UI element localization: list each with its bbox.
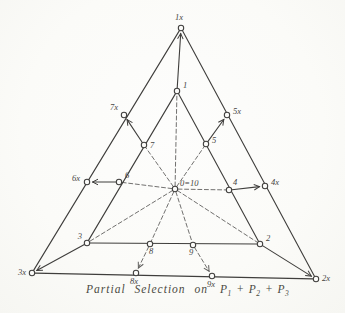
scanned-figure-page: 0=101234567891x2x3x4x5x6x7x8x9x Partial …	[0, 0, 345, 313]
label-4x: 4x	[271, 177, 279, 187]
point-7	[141, 142, 146, 147]
label-5x: 5x	[233, 106, 241, 116]
edge-0-9	[176, 192, 192, 242]
point-3	[84, 240, 89, 245]
edge-9-9x	[195, 248, 210, 272]
label-7x: 7x	[110, 102, 118, 112]
point-4x	[262, 183, 267, 188]
diagram-labels: 0=101234567891x2x3x4x5x6x7x8x9x	[17, 12, 330, 289]
triangle-selection-diagram: 0=101234567891x2x3x4x5x6x7x8x9x	[0, 0, 345, 313]
edge-7-7x	[127, 120, 142, 143]
formula-term-subscript: 2	[256, 289, 260, 298]
edge-1-1x	[177, 34, 181, 89]
edge-2-1	[178, 94, 258, 242]
label-1x: 1x	[175, 12, 183, 22]
point-4	[226, 187, 231, 192]
label-2x: 2x	[322, 273, 330, 283]
point-1x	[178, 25, 183, 30]
point-0	[172, 186, 177, 191]
point-2	[257, 241, 262, 246]
formula-term-base: P	[220, 283, 228, 295]
edge-0-8	[151, 192, 174, 242]
label-2: 2	[266, 233, 271, 243]
label-5: 5	[212, 135, 216, 145]
edge-0-7	[146, 148, 174, 187]
diagram-edges	[34, 31, 315, 279]
point-6x	[84, 179, 89, 184]
point-6	[116, 179, 121, 184]
point-7x	[121, 112, 126, 117]
edge-0-6	[122, 182, 172, 188]
point-2x	[313, 276, 318, 281]
edge-8-8x	[138, 247, 148, 268]
edge-2-2x	[263, 246, 312, 277]
point-8x	[133, 270, 138, 275]
figure-caption: Partial Selection onP1 + P2 + P3	[86, 283, 289, 295]
label-9: 9	[189, 247, 194, 257]
point-3x	[29, 270, 34, 275]
point-5	[203, 141, 208, 146]
label-3: 3	[77, 231, 82, 241]
edge-0-1	[175, 94, 177, 186]
edge-3-3x	[37, 244, 85, 270]
label-6x: 6x	[72, 173, 80, 183]
edge-2x-1x	[182, 31, 314, 277]
label-1: 1	[183, 80, 187, 90]
caption-text: Partial Selection on	[86, 283, 208, 295]
edge-3x-2x	[35, 273, 313, 279]
caption-formula: P1 + P2 + P3	[220, 283, 289, 295]
formula-term-subscript: 3	[285, 289, 289, 298]
edge-4-4x	[232, 187, 260, 190]
label-3x: 3x	[17, 267, 26, 277]
edge-1-3	[89, 94, 176, 241]
edge-0-3	[90, 191, 173, 242]
label-4: 4	[233, 177, 238, 187]
label-0: 0=10	[180, 178, 199, 188]
point-9x	[209, 273, 214, 278]
point-1	[174, 88, 179, 93]
formula-term-base: P	[278, 283, 286, 295]
edge-0-4	[178, 189, 226, 190]
edge-3-2	[90, 243, 257, 244]
label-7: 7	[150, 140, 155, 150]
edge-1x-3x	[34, 31, 180, 271]
formula-term-subscript: 1	[228, 289, 232, 298]
label-8: 8	[149, 246, 154, 256]
point-5x	[224, 112, 229, 117]
